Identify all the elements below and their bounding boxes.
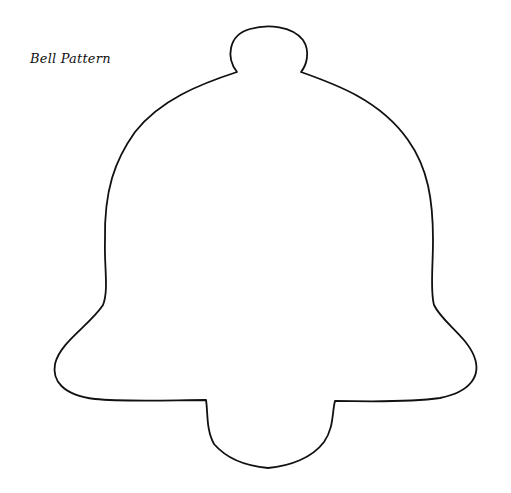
bell-outline-shape bbox=[0, 0, 511, 493]
